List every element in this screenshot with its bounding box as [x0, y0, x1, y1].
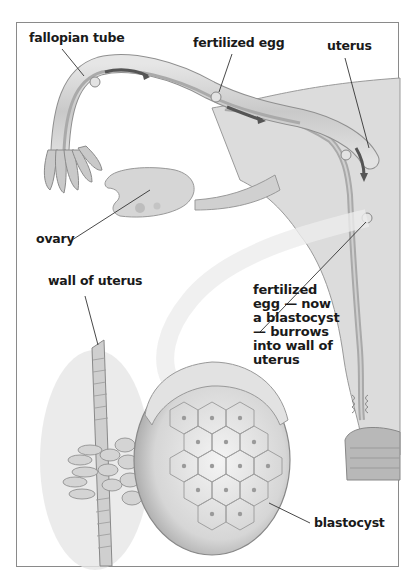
- anatomy-illustration: [0, 0, 419, 586]
- label-uterus: uterus: [327, 39, 372, 54]
- label-blastocyst: blastocyst: [314, 516, 385, 531]
- label-blastocyst-note: fertilized egg — now a blastocyst — burr…: [253, 283, 339, 367]
- label-fallopian-tube: fallopian tube: [29, 31, 124, 46]
- label-fertilized-egg: fertilized egg: [193, 36, 285, 51]
- label-wall-of-uterus: wall of uterus: [48, 274, 142, 289]
- label-ovary: ovary: [36, 232, 74, 247]
- blastocyst-shape: [134, 362, 290, 555]
